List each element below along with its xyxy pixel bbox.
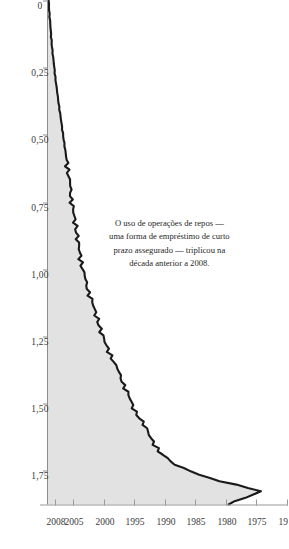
annotation-line: uma forma de empréstimo de curto: [94, 230, 244, 243]
annotation-line: O uso de operações de repos —: [94, 216, 244, 229]
year-tick: [287, 499, 288, 505]
year-tick-label: 1995: [126, 517, 145, 527]
year-tick-label: 1985: [187, 517, 206, 527]
value-tick: [43, 0, 48, 1]
year-tick: [134, 499, 135, 505]
value-tick-label: 1,50: [31, 403, 48, 413]
year-tick: [104, 499, 105, 505]
year-tick: [226, 499, 227, 505]
year-tick-label: 2000: [95, 517, 114, 527]
year-tick: [165, 499, 166, 505]
value-tick-label: 0,50: [31, 134, 48, 144]
value-tick-label: 0: [38, 0, 43, 10]
year-tick: [55, 499, 56, 505]
year-tick-label: 1990: [156, 517, 175, 527]
repo-usage-area-chart: 00,250,500,751,001,251,501,75 1970197519…: [0, 0, 288, 549]
annotation-line: década anterior a 2008.: [94, 256, 244, 269]
chart-stage: 00,250,500,751,001,251,501,75 1970197519…: [0, 0, 288, 549]
year-tick: [195, 499, 196, 505]
year-tick-label: 1970: [279, 517, 289, 527]
chart-annotation: O uso de operações de repos —uma forma d…: [94, 216, 244, 269]
value-tick-label: 1,00: [31, 269, 48, 279]
value-tick-label: 0,75: [31, 202, 48, 212]
year-tick: [73, 499, 74, 505]
year-tick-label: 2008: [47, 517, 66, 527]
value-tick-label: 0,25: [31, 67, 48, 77]
value-tick-label: 1,25: [31, 336, 48, 346]
year-tick-label: 1975: [248, 517, 267, 527]
value-tick-label: 1,75: [31, 470, 48, 480]
year-tick-label: 2005: [65, 517, 84, 527]
year-tick: [257, 499, 258, 505]
annotation-line: prazo assegurado — triplicou na: [94, 243, 244, 256]
year-tick-label: 1980: [217, 517, 236, 527]
